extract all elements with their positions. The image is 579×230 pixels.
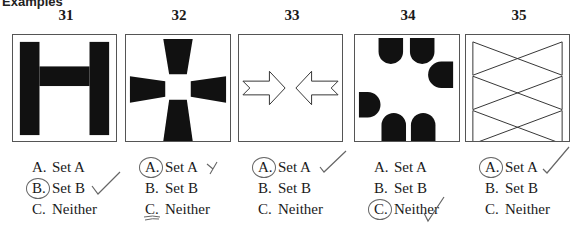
option-a[interactable]: A.Set A (32, 157, 97, 178)
figure-four-trapezoids (125, 34, 231, 142)
answer-options: A.Set A B.Set B C.Neither (145, 157, 210, 220)
checkmark-icon (541, 145, 571, 175)
option-c[interactable]: C.Neither (32, 199, 97, 220)
option-b[interactable]: B.Set B (32, 178, 97, 199)
question-31: 31 A.Set A B.Set B C.Neither (12, 0, 120, 230)
h-shape-icon (13, 35, 116, 141)
question-35: 35 A.Set A B.Set B C.Neither (465, 0, 573, 230)
option-b[interactable]: B.Set B (258, 178, 323, 199)
inward-arrows-icon (239, 35, 342, 141)
trapezoid-cross-icon (126, 35, 230, 141)
option-a[interactable]: A.Set A (374, 157, 439, 178)
answer-options: A.Set A B.Set B C.Neither (32, 157, 97, 220)
question-number: 31 (12, 7, 120, 24)
figure-stacked-bowties (465, 34, 570, 142)
option-a[interactable]: A.Set A (258, 157, 323, 178)
circle-mark-icon (252, 157, 276, 178)
answer-options: A.Set A B.Set B C.Neither (258, 157, 323, 220)
option-b[interactable]: B.Set B (145, 178, 210, 199)
circle-mark-icon (368, 199, 392, 220)
option-a[interactable]: A.Set A (485, 157, 550, 178)
figure-two-arrows (238, 34, 343, 142)
answer-options: A.Set A B.Set B C.Neither (374, 157, 439, 220)
question-number: 35 (465, 7, 573, 24)
option-b[interactable]: B.Set B (485, 178, 550, 199)
question-32: 32 A.Set A B.Set B C.Neither (125, 0, 233, 230)
bowties-icon (466, 35, 569, 141)
checkmark-icon (90, 170, 122, 196)
underline-mark-icon (143, 215, 163, 221)
circle-mark-icon (479, 157, 503, 178)
question-34: 34 A.Set A B.Set B C.Neither (354, 0, 462, 230)
checkmark-icon (418, 195, 446, 223)
option-a[interactable]: A.Set A (145, 157, 210, 178)
option-c[interactable]: C.Neither (258, 199, 323, 220)
option-c[interactable]: C.Neither (485, 199, 550, 220)
question-number: 32 (125, 7, 233, 24)
option-c[interactable]: C.Neither (374, 199, 439, 220)
question-number: 33 (238, 7, 346, 24)
option-c[interactable]: C.Neither (145, 199, 210, 220)
figure-h-shape (12, 34, 117, 142)
circle-mark-icon (26, 178, 50, 199)
checkmark-icon (318, 149, 348, 175)
x-mark-icon (205, 160, 219, 176)
answer-options: A.Set A B.Set B C.Neither (485, 157, 550, 220)
question-number: 34 (354, 7, 462, 24)
circle-mark-icon (139, 157, 163, 178)
half-round-shapes-icon (355, 35, 459, 141)
question-33: 33 A.Set A B.Set B C.Neither (238, 0, 346, 230)
figure-half-round-shapes (354, 34, 460, 142)
